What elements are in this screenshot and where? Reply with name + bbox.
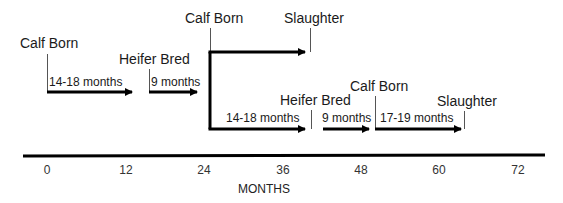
tick-label: 60 (432, 163, 446, 177)
tick-label: 0 (44, 163, 51, 177)
event-label: Calf Born (185, 10, 243, 26)
tick-label: 12 (119, 163, 133, 177)
duration-arrow-3: 14-18 months (226, 111, 299, 125)
event-label: Heifer Bred (280, 92, 351, 108)
duration-label: 9 months (322, 111, 371, 125)
months-axis: 0 12 24 36 48 60 72 MONTHS (23, 155, 545, 196)
event-calf-born-2: Calf Born (185, 10, 243, 52)
event-label: Calf Born (20, 35, 78, 51)
duration-label: 14-18 months (49, 75, 122, 89)
duration-arrow-2: 9 months (149, 75, 200, 92)
event-slaughter-1: Slaughter (284, 10, 344, 52)
duration-arrow-4: 9 months (322, 111, 371, 129)
tick-label: 24 (197, 163, 211, 177)
tick-label: 48 (354, 163, 368, 177)
tick-label: 36 (276, 163, 290, 177)
event-label: Heifer Bred (119, 51, 190, 67)
duration-label: 14-18 months (226, 111, 299, 125)
tick-label: 72 (511, 163, 525, 177)
event-label: Slaughter (284, 10, 344, 26)
axis-line (23, 155, 545, 156)
cattle-lifecycle-timeline: Calf Born 14-18 months Heifer Bred 9 mon… (0, 0, 563, 203)
duration-arrow-5: 17-19 months (375, 111, 461, 129)
duration-label: 9 months (151, 75, 200, 89)
duration-label: 17-19 months (380, 111, 453, 125)
event-label: Calf Born (350, 78, 408, 94)
event-label: Slaughter (437, 93, 497, 109)
axis-title: MONTHS (238, 182, 290, 196)
duration-arrow-1: 14-18 months (47, 75, 132, 92)
